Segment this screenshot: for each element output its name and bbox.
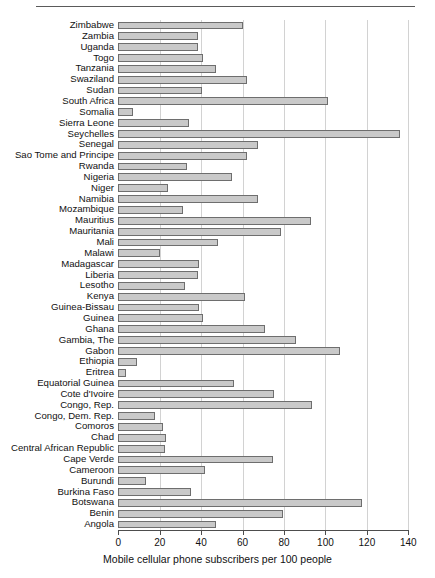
bar-mauritania — [118, 228, 281, 236]
x-tick-120 — [367, 530, 368, 535]
bar-row: Comoros — [0, 421, 435, 432]
bar-liberia — [118, 271, 198, 279]
bar-swaziland — [118, 76, 246, 84]
bar-row: Guinea-Bissau — [0, 302, 435, 313]
bar-row: Sierra Leone — [0, 118, 435, 129]
category-label-congo-rep: Congo, Rep. — [60, 400, 114, 411]
bar-cape-verde — [118, 456, 272, 464]
bar-sierra-leone — [118, 119, 188, 127]
category-label-madagascar: Madagascar — [61, 259, 114, 270]
x-axis-label: Mobile cellular phone subscribers per 10… — [0, 553, 435, 565]
bar-row: Angola — [0, 519, 435, 530]
bar-kenya — [118, 293, 244, 301]
bar-row: Burundi — [0, 476, 435, 487]
bar-row: Seychelles — [0, 129, 435, 140]
x-tick-label-60: 60 — [237, 537, 248, 548]
bar-row: Uganda — [0, 42, 435, 53]
bar-sao-tome-and-principe — [118, 152, 246, 160]
category-label-niger: Niger — [91, 183, 114, 194]
bar-equatorial-guinea — [118, 380, 234, 388]
bar-nigeria — [118, 173, 232, 181]
bar-rwanda — [118, 163, 186, 171]
bar-uganda — [118, 43, 198, 51]
bar-malawi — [118, 249, 159, 257]
bar-row: Liberia — [0, 270, 435, 281]
bar-comoros — [118, 423, 163, 431]
bar-row: Cameroon — [0, 465, 435, 476]
x-tick-label-120: 120 — [359, 537, 376, 548]
bar-row: Zambia — [0, 31, 435, 42]
category-label-sierra-leone: Sierra Leone — [59, 118, 114, 129]
bar-row: Lesotho — [0, 280, 435, 291]
category-label-somalia: Somalia — [79, 107, 114, 118]
bar-zimbabwe — [118, 22, 242, 30]
bar-congo-rep — [118, 401, 312, 409]
x-tick-80 — [284, 530, 285, 535]
bar-seychelles — [118, 130, 400, 138]
bar-niger — [118, 184, 168, 192]
header-divider — [36, 6, 415, 7]
x-tick-label-100: 100 — [317, 537, 334, 548]
bar-angola — [118, 521, 215, 529]
bar-central-african-republic — [118, 445, 165, 453]
bar-row: Somalia — [0, 107, 435, 118]
x-axis-line — [118, 530, 409, 531]
bar-row: Benin — [0, 508, 435, 519]
x-tick-100 — [325, 530, 326, 535]
x-tick-label-20: 20 — [154, 537, 165, 548]
bar-row: Nigeria — [0, 172, 435, 183]
bar-row: Mauritius — [0, 215, 435, 226]
bar-benin — [118, 510, 283, 518]
bar-row: Zimbabwe — [0, 20, 435, 31]
bar-burkina-faso — [118, 488, 191, 496]
bar-row: Ethiopia — [0, 356, 435, 367]
bar-row: Cape Verde — [0, 454, 435, 465]
bar-row: Mauritania — [0, 226, 435, 237]
bar-row: Tanzania — [0, 63, 435, 74]
bar-mauritius — [118, 217, 311, 225]
bar-chad — [118, 434, 166, 442]
bar-cote-d-ivoire — [118, 390, 273, 398]
bar-row: Congo, Rep. — [0, 400, 435, 411]
bar-row: Mali — [0, 237, 435, 248]
x-tick-0 — [118, 530, 119, 535]
bar-cameroon — [118, 466, 205, 474]
category-label-burundi: Burundi — [81, 476, 114, 487]
bar-row: Gambia, The — [0, 335, 435, 346]
bar-senegal — [118, 141, 258, 149]
bar-burundi — [118, 477, 146, 485]
bar-mali — [118, 239, 217, 247]
category-label-gambia-the: Gambia, The — [59, 335, 114, 346]
bar-row: Swaziland — [0, 74, 435, 85]
x-tick-label-80: 80 — [278, 537, 289, 548]
bar-guinea-bissau — [118, 304, 199, 312]
bar-namibia — [118, 195, 258, 203]
bar-gabon — [118, 347, 340, 355]
bar-row: Rwanda — [0, 161, 435, 172]
bar-row: Madagascar — [0, 259, 435, 270]
bar-gambia-the — [118, 336, 296, 344]
x-tick-40 — [201, 530, 202, 535]
bar-row: Botswana — [0, 497, 435, 508]
bar-row: Togo — [0, 53, 435, 64]
bar-botswana — [118, 499, 361, 507]
bar-row: Guinea — [0, 313, 435, 324]
bar-ghana — [118, 325, 265, 333]
bar-lesotho — [118, 282, 184, 290]
bar-row: Niger — [0, 183, 435, 194]
chart-figure: 020406080100120140 Mobile cellular phone… — [0, 0, 435, 578]
bar-eritrea — [118, 369, 125, 377]
x-tick-label-40: 40 — [196, 537, 207, 548]
bar-row: Mozambique — [0, 204, 435, 215]
x-tick-20 — [160, 530, 161, 535]
bar-zambia — [118, 32, 198, 40]
bar-togo — [118, 54, 203, 62]
x-tick-60 — [243, 530, 244, 535]
bar-guinea — [118, 314, 203, 322]
bar-row: Sao Tome and Principe — [0, 150, 435, 161]
bar-row: Gabon — [0, 346, 435, 357]
bar-somalia — [118, 108, 133, 116]
x-tick-140 — [408, 530, 409, 535]
category-label-angola: Angola — [84, 519, 114, 530]
x-tick-label-0: 0 — [116, 537, 122, 548]
